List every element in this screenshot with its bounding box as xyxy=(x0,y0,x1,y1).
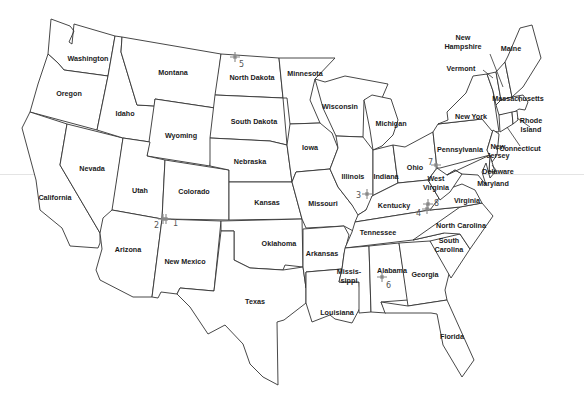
state-label-utah: Utah xyxy=(132,186,148,195)
state-label-iowa: Iowa xyxy=(302,143,319,152)
state-label-oklahoma: Oklahoma xyxy=(262,239,298,248)
us-map: WashingtonOregonCaliforniaNevadaIdahoMon… xyxy=(0,0,584,398)
state-label-minnesota: Minnesota xyxy=(287,69,324,78)
state-label-maine: Maine xyxy=(501,44,521,53)
state-label-colorado: Colorado xyxy=(178,187,210,196)
state-rhode-island[interactable] xyxy=(512,111,518,124)
marker-number: 1 xyxy=(173,219,178,228)
state-arizona[interactable] xyxy=(96,210,162,297)
state-label-nebraska: Nebraska xyxy=(234,157,267,166)
state-label-georgia: Georgia xyxy=(411,270,439,279)
state-label-arkansas: Arkansas xyxy=(306,249,338,258)
marker-number: 7 xyxy=(428,158,433,167)
state-label-massachusetts: Massachusetts xyxy=(492,94,544,103)
state-maine[interactable] xyxy=(505,25,541,97)
state-label-rhode-island: RhodeIsland xyxy=(520,116,542,134)
state-label-new-mexico: New Mexico xyxy=(164,257,206,266)
state-label-wisconsin: Wisconsin xyxy=(322,102,358,111)
state-connecticut[interactable] xyxy=(499,112,513,132)
state-label-california: California xyxy=(38,193,72,202)
state-label-kansas: Kansas xyxy=(254,198,280,207)
state-label-south-dakota: South Dakota xyxy=(231,117,278,126)
marker-number: 8 xyxy=(434,199,439,208)
state-label-louisiana: Louisiana xyxy=(320,308,355,317)
state-label-washington: Washington xyxy=(68,54,109,63)
state-label-wyoming: Wyoming xyxy=(165,131,197,140)
state-label-michigan: Michigan xyxy=(375,119,406,128)
state-label-north-carolina: North Carolina xyxy=(436,221,487,230)
state-label-maryland: Maryland xyxy=(477,179,509,188)
state-label-nevada: Nevada xyxy=(79,164,106,173)
state-label-tennessee: Tennessee xyxy=(360,228,397,237)
state-label-idaho: Idaho xyxy=(115,109,135,118)
state-label-north-dakota: North Dakota xyxy=(229,73,275,82)
state-label-illinois: Illinois xyxy=(342,172,365,181)
state-label-kentucky: Kentucky xyxy=(378,201,410,210)
state-label-missouri: Missouri xyxy=(308,199,338,208)
state-label-montana: Montana xyxy=(158,68,189,77)
marker-number: 3 xyxy=(356,191,361,200)
marker-number: 4 xyxy=(416,209,421,218)
marker-number: 5 xyxy=(239,60,244,69)
state-label-arizona: Arizona xyxy=(115,245,142,254)
state-label-indiana: Indiana xyxy=(373,172,399,181)
state-label-texas: Texas xyxy=(245,297,265,306)
state-label-ohio: Ohio xyxy=(407,163,424,172)
state-label-connecticut: Connecticut xyxy=(499,144,541,153)
marker-number: 2 xyxy=(154,221,159,230)
state-label-vermont: Vermont xyxy=(447,64,476,73)
state-label-delaware: Delaware xyxy=(482,167,514,176)
state-label-florida: Florida xyxy=(440,332,465,341)
state-label-oregon: Oregon xyxy=(56,89,82,98)
state-label-new-hampshire: NewHampshire xyxy=(444,33,481,51)
marker-number: 6 xyxy=(386,281,391,290)
state-label-new-york: New York xyxy=(455,112,487,121)
state-label-virginia: Virginia xyxy=(454,196,481,205)
state-label-pennsylvania: Pennsylvania xyxy=(437,145,484,154)
